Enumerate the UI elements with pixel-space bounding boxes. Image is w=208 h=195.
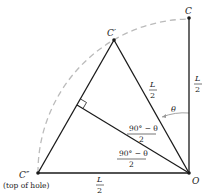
seg-OCdoubleprime-num: L: [96, 175, 102, 184]
angle-theta-label: θ: [171, 105, 176, 114]
point-O-dot: [187, 171, 191, 175]
point-C-dot: [187, 16, 191, 20]
seg-OCprime-num: L: [149, 80, 155, 89]
seg-OC-den: 2: [195, 85, 200, 94]
rotation-diagram: C C′ C″ (top of hole) O L 2 L 2 L 2 θ 90…: [0, 0, 208, 195]
label-Cprime: C′: [107, 28, 116, 38]
label-C: C: [185, 6, 192, 16]
seg-OC-num: L: [194, 74, 200, 83]
angle-lower-den: 2: [129, 160, 134, 169]
segment-Cprime-Cdoubleprime: [38, 40, 114, 173]
label-Cdoubleprime: C″: [19, 170, 30, 180]
label-top-of-hole: (top of hole): [3, 181, 49, 190]
point-Cdoubleprime-dot: [36, 171, 40, 175]
angle-lower-num: 90° − θ: [119, 149, 148, 158]
label-O: O: [192, 176, 200, 186]
point-Cprime-dot: [112, 38, 116, 42]
angle-upper-den: 2: [139, 135, 144, 144]
seg-OCdoubleprime-den: 2: [97, 186, 102, 195]
angle-upper-num: 90° − θ: [129, 124, 158, 133]
theta-arrowhead: [162, 114, 166, 118]
seg-OCprime-den: 2: [150, 91, 155, 100]
